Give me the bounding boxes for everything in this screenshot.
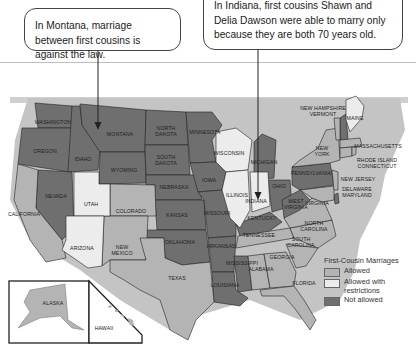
label-louisiana: LOUISIANA [211,282,240,288]
label-oregon: OREGON [33,148,57,154]
legend-label-restricted: Allowed with restrictions [344,278,404,295]
state-delaware [334,193,339,204]
label-ohio: OHIO [272,183,286,189]
label-south-dakota-2: DAKOTA [155,160,177,166]
label-texas: TEXAS [168,275,186,281]
label-alaska: ALASKA [43,300,64,306]
indiana-callout-text: In Indiana, first cousins Shawn and Deli… [214,0,386,40]
label-arizona: ARIZONA [70,245,94,251]
legend-swatch-restricted [324,279,340,288]
map-legend: First-Cousin Marriages Allowed Allowed w… [324,256,404,307]
label-new-york-2: YORK [314,151,330,157]
label-colorado: COLORADO [116,208,147,214]
label-oklahoma: OKLAHOMA [165,239,196,245]
label-new-mexico-2: MEXICO [111,250,132,256]
label-wyoming: WYOMING [111,167,138,173]
label-connecticut: CONNECTICUT [358,163,398,169]
label-virginia: VIRGINIA [305,200,329,206]
montana-callout: In Montana, marriage between first cousi… [24,8,181,51]
label-maryland: MARYLAND [342,192,372,198]
legend-swatch-allowed [324,268,340,277]
label-kansas: KANSAS [166,212,188,218]
state-arkansas [208,236,236,272]
label-missouri: MISSOURI [204,210,230,216]
label-utah: UTAH [84,201,98,207]
state-connecticut [340,147,352,158]
legend-label-not-allowed: Not allowed [344,296,383,305]
label-alabama: ALABAMA [248,266,274,272]
state-pennsylvania [292,163,334,190]
label-georgia: GEORGIA [270,254,295,260]
label-new-jersey: NEW JERSEY [341,176,376,182]
label-montana: MONTANA [107,131,134,137]
label-california: CALIFORNIA [8,211,41,217]
label-massachusetts: MASSACHUSETTS [354,143,402,149]
label-idaho: IDAHO [75,156,92,162]
legend-item-not-allowed: Not allowed [324,296,404,306]
label-tennessee: TENNESSEE [243,232,276,238]
legend-item-allowed: Allowed [324,267,404,277]
label-nevada: NEVADA [45,193,67,199]
label-washington: WASHINGTON [35,119,72,125]
label-kentucky: KENTUCKY [247,215,276,221]
legend-title: First-Cousin Marriages [324,256,404,265]
indiana-callout: In Indiana, first cousins Shawn and Deli… [203,0,403,50]
label-iowa: IOWA [202,177,216,183]
label-north-dakota-2: DAKOTA [155,131,177,137]
label-minnesota: MINNESOTA [189,129,221,135]
label-south-carolina-2: CAROLINA [287,242,315,248]
label-nebraska: NEBRASKA [159,184,188,190]
label-florida: FLORIDA [292,280,316,286]
legend-item-restricted: Allowed with restrictions [324,278,404,295]
label-north-carolina-2: CAROLINA [300,226,328,232]
label-vermont: VERMONT [310,111,337,117]
label-indiana: INDIANA [245,198,267,204]
legend-label-allowed: Allowed [344,267,370,276]
legend-swatch-not-allowed [324,297,340,306]
label-hawaii: HAWAII [95,325,114,331]
label-maine: MAINE [347,115,364,121]
label-arkansas: ARKANSAS [206,243,235,249]
label-pennsylvania: PENNSYLVANIA [291,170,332,176]
label-michigan: MICHIGAN [251,159,278,165]
label-wisconsin: WISCONSIN [214,150,245,156]
